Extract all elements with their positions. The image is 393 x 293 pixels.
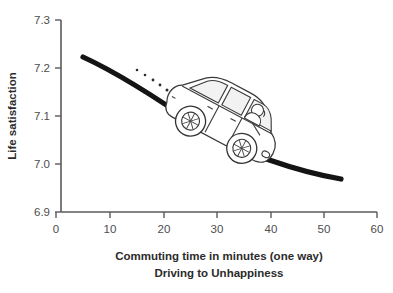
x-axis-title: Commuting time in minutes (one way) [115,250,323,262]
x-tick-label-10: 10 [104,223,117,235]
y-axis-title: Life satisfaction [6,72,18,160]
x-tick-label-0: 0 [53,223,59,235]
y-tick-label-7-1: 7.1 [34,110,50,122]
y-tick-label-7-3: 7.3 [34,14,50,26]
x-tick-label-50: 50 [318,223,331,235]
x-tick-label-30: 30 [211,223,224,235]
y-tick-label-7-0: 7.0 [34,158,50,170]
y-tick-label-7-2: 7.2 [34,62,50,74]
x-tick-label-60: 60 [371,223,384,235]
figure-caption: Driving to Unhappiness [154,267,283,279]
x-tick-label-40: 40 [265,223,278,235]
y-tick-label-6-9: 6.9 [34,206,50,218]
chart-figure: 7.3 7.2 7.1 7.0 6.9 Life satisfaction 0 … [0,0,393,293]
x-tick-label-20: 20 [158,223,171,235]
